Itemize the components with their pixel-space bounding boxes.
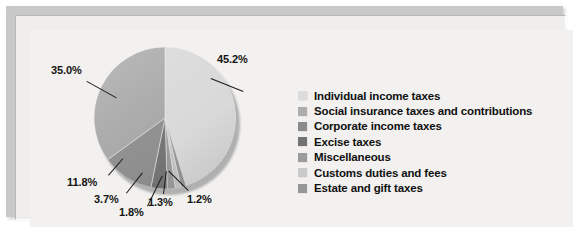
slice-label-corporate-income-taxes: 11.8% [67, 176, 97, 188]
legend-item-label: Excise taxes [314, 136, 381, 148]
slice-label-individual-income-taxes: 45.2% [217, 53, 248, 65]
slice-label-estate-and-gift-taxes: 1.2% [187, 193, 212, 205]
legend-item-excise-taxes[interactable]: Excise taxes [298, 134, 532, 149]
legend-item-label: Individual income taxes [314, 90, 440, 102]
legend-swatch-icon [298, 168, 307, 177]
chart-frame-outer: 45.2% 35.0% 11.8% 3.7% 1.8% 1.3% 1.2% [6, 6, 563, 217]
legend-item-individual-income-taxes[interactable]: Individual income taxes [298, 88, 532, 103]
legend-swatch-icon [298, 153, 307, 162]
legend-item-label: Social insurance taxes and contributions [314, 105, 532, 117]
legend-item-corporate-income-taxes[interactable]: Corporate income taxes [298, 119, 532, 134]
legend-swatch-icon [298, 184, 307, 193]
slice-label-social-insurance-taxes: 35.0% [51, 64, 82, 76]
chart-legend: Individual income taxes Social insurance… [298, 88, 532, 196]
legend-item-label: Miscellaneous [314, 151, 391, 163]
pie-chart-graphic [93, 47, 245, 199]
legend-item-social-insurance-taxes-and-contributions[interactable]: Social insurance taxes and contributions [298, 103, 532, 118]
slice-label-excise-taxes: 3.7% [94, 193, 119, 205]
chart-plot-surface: 45.2% 35.0% 11.8% 3.7% 1.8% 1.3% 1.2% [30, 30, 573, 227]
legend-item-label: Corporate income taxes [314, 120, 442, 132]
slice-label-customs-duties-and-fees: 1.3% [148, 196, 173, 208]
legend-swatch-icon [298, 107, 307, 116]
pie-chart-panel: 45.2% 35.0% 11.8% 3.7% 1.8% 1.3% 1.2% [0, 0, 577, 232]
legend-item-customs-duties-and-fees[interactable]: Customs duties and fees [298, 165, 532, 180]
legend-item-miscellaneous[interactable]: Miscellaneous [298, 150, 532, 165]
legend-item-estate-and-gift-taxes[interactable]: Estate and gift taxes [298, 180, 532, 195]
legend-item-label: Estate and gift taxes [314, 182, 423, 194]
legend-swatch-icon [298, 137, 307, 146]
legend-item-label: Customs duties and fees [314, 167, 447, 179]
slice-label-miscellaneous: 1.8% [119, 206, 144, 218]
legend-swatch-icon [298, 122, 307, 131]
chart-frame-inner: 45.2% 35.0% 11.8% 3.7% 1.8% 1.3% 1.2% [15, 15, 566, 220]
legend-swatch-icon [298, 91, 307, 100]
